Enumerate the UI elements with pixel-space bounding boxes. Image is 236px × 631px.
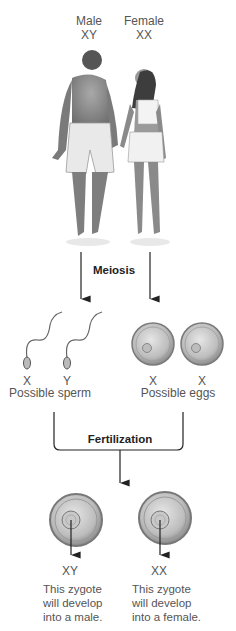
female-label: Female	[119, 15, 169, 28]
zygote-xx-caption: This zygote will develop into a female.	[132, 582, 201, 624]
egg-x-icon-1	[132, 323, 174, 365]
male-figure	[52, 50, 118, 246]
zygote-xx-icon	[139, 492, 191, 555]
zygote-xy-caption: This zygote will develop into a male.	[43, 582, 102, 624]
zygote-xx-genotype: XX	[147, 565, 171, 578]
meiosis-label: Meiosis	[90, 264, 138, 277]
male-genotype: XY	[69, 29, 109, 42]
male-label: Male	[69, 15, 109, 28]
zygote-xy-icon	[50, 494, 102, 555]
sperm-x-icon	[24, 312, 63, 369]
diagram-graphics	[0, 0, 236, 631]
fertilization-label: Fertilization	[80, 433, 160, 446]
possible-eggs-label: Possible eggs	[138, 387, 218, 400]
female-genotype: XX	[119, 29, 169, 42]
female-figure	[120, 69, 170, 246]
sperm-y-icon	[64, 312, 103, 369]
zygote-xy-genotype: XY	[58, 565, 82, 578]
egg-x-icon-2	[181, 323, 223, 365]
possible-sperm-label: Possible sperm	[8, 387, 92, 400]
